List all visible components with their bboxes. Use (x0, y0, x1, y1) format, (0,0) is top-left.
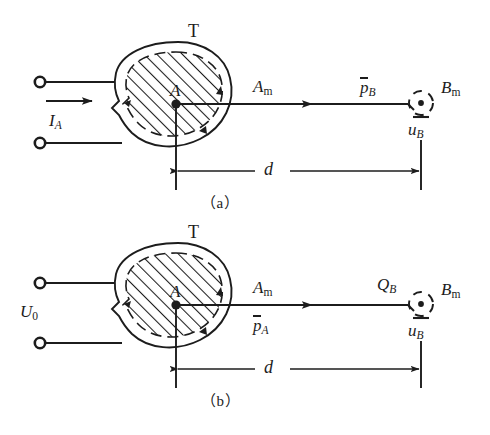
receiver-dot-b (418, 301, 424, 307)
distance-label-a: d (264, 160, 273, 178)
terminal-top-a (35, 77, 45, 87)
source-voltage-label-b: U0 (20, 303, 38, 323)
antenna-coupling-figure (0, 0, 490, 435)
center-point-label-a: A (170, 82, 180, 99)
caption-a: （a） (201, 196, 239, 211)
transmit-power-label-b: pA (253, 317, 269, 337)
receiver-voltage-label-b: uB (408, 322, 424, 342)
receiver-charge-label-b: QB (377, 276, 396, 296)
terminal-top-b (35, 278, 45, 288)
transmitter-label-b: T (188, 223, 199, 241)
transmitter-label-a: T (188, 22, 199, 40)
ray-label-b: Am (253, 279, 272, 299)
receiver-label-a: Bm (441, 79, 460, 99)
source-current-label-a: IA (49, 112, 62, 132)
ray-label-a: Am (253, 78, 272, 98)
distance-label-b: d (264, 358, 273, 376)
terminal-bottom-a (35, 138, 45, 148)
received-power-label-a: pB (360, 79, 376, 99)
receiver-dot-a (418, 100, 424, 106)
caption-b: （b） (201, 394, 240, 409)
terminal-bottom-b (35, 338, 45, 348)
receiver-label-b: Bm (441, 281, 460, 301)
receiver-voltage-label-a: uB (408, 121, 424, 141)
center-point-label-b: A (170, 283, 180, 300)
